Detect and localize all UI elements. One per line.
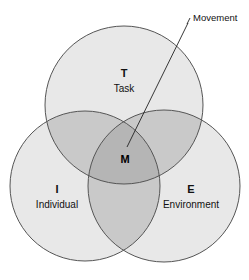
venn-diagram-svg: T Task I Individual E Environment M Move… bbox=[0, 0, 249, 280]
label-movement-center-letter: M bbox=[120, 153, 129, 165]
label-task-letter: T bbox=[121, 67, 128, 79]
label-individual-letter: I bbox=[55, 183, 58, 195]
venn-diagram-container: T Task I Individual E Environment M Move… bbox=[0, 0, 249, 280]
label-environment-word: Environment bbox=[163, 199, 219, 210]
label-task-word: Task bbox=[114, 83, 136, 94]
movement-callout-label: Movement bbox=[193, 12, 238, 23]
label-individual-word: Individual bbox=[36, 199, 78, 210]
label-environment-letter: E bbox=[187, 183, 194, 195]
